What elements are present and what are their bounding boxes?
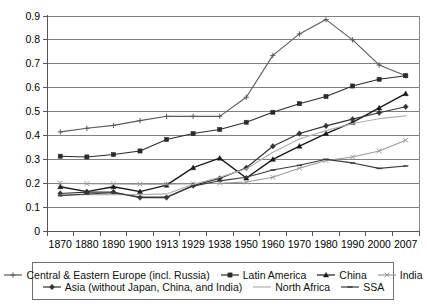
y-axis-tick-label: 0.1 [25, 201, 40, 213]
data-point-marker [137, 118, 142, 123]
legend-item-china[interactable]: China [316, 270, 366, 281]
x-axis-tick-label: 1960 [261, 238, 285, 250]
none-legend-marker-icon [252, 282, 272, 292]
x-axis-tick-label: 1890 [102, 238, 126, 250]
legend-item-label: Central & Eastern Europe (incl. Russia) [26, 270, 209, 281]
line-chart: 00.10.20.30.40.50.60.70.80.9187018801890… [0, 0, 427, 258]
legend-item-north-africa[interactable]: North Africa [252, 282, 330, 293]
data-point-marker [324, 123, 329, 129]
legend-item-latin-america[interactable]: Latin America [220, 270, 307, 281]
data-point-marker [138, 149, 142, 153]
legend-item-label: SSA [363, 282, 384, 293]
data-point-marker [403, 138, 408, 143]
data-point-marker [191, 131, 195, 135]
legend-row-2: Asia (without Japan, China, and India)No… [37, 282, 389, 293]
legend-row-1: Central & Eastern Europe (incl. Russia)L… [0, 270, 427, 281]
data-point-marker [85, 155, 89, 159]
chart-page: 00.10.20.30.40.50.60.70.80.9187018801890… [0, 0, 427, 308]
legend-item-central-eastern-europe-incl-russia[interactable]: Central & Eastern Europe (incl. Russia) [3, 270, 209, 281]
x-axis-tick-label: 1938 [208, 238, 232, 250]
data-point-marker [58, 129, 63, 134]
x-axis-tick-label: 1900 [128, 238, 152, 250]
data-point-marker [111, 152, 115, 156]
legend-item-label: North Africa [275, 282, 330, 293]
legend-item-label: China [339, 270, 366, 281]
none-icon [252, 282, 272, 292]
y-axis-tick-label: 0.8 [25, 33, 40, 45]
series-central-eastern-europe-incl-russia [58, 17, 409, 134]
legend-item-asia-without-japan-china-and-india[interactable]: Asia (without Japan, China, and India) [42, 282, 242, 293]
data-point-marker [403, 104, 408, 110]
dash-legend-marker-icon [340, 282, 360, 292]
diamond-icon [42, 282, 62, 292]
data-point-marker [228, 273, 232, 277]
y-axis-tick-label: 0.7 [25, 57, 40, 69]
data-point-marker [217, 156, 222, 161]
square-legend-marker-icon [220, 270, 240, 280]
data-point-marker [297, 102, 301, 106]
data-point-marker [404, 74, 408, 78]
triangle-legend-marker-icon [316, 270, 336, 280]
cross-legend-marker-icon [377, 270, 397, 280]
data-point-marker [350, 84, 354, 88]
data-point-marker [111, 189, 116, 195]
x-axis-tick-label: 2007 [394, 238, 418, 250]
data-point-marker [49, 284, 54, 290]
data-point-marker [377, 77, 381, 81]
data-point-marker [11, 272, 16, 277]
series-latin-america [58, 74, 408, 159]
plus-legend-marker-icon [3, 270, 23, 280]
x-axis-tick-label: 1880 [75, 238, 99, 250]
data-point-marker [191, 114, 196, 119]
series-asia-without-japan-china-and-india [58, 104, 408, 200]
y-axis-tick-label: 0.2 [25, 177, 40, 189]
x-axis-tick-label: 1929 [181, 238, 205, 250]
data-point-marker [377, 110, 382, 116]
y-axis-tick-label: 0.3 [25, 153, 40, 165]
data-point-marker [84, 126, 89, 131]
x-axis-tick-label: 1870 [49, 238, 73, 250]
data-point-marker [271, 110, 275, 114]
y-axis-tick-label: 0.4 [25, 129, 40, 141]
x-axis-tick-label: 1950 [235, 238, 259, 250]
legend-item-ssa[interactable]: SSA [340, 282, 384, 293]
dash-icon [340, 282, 360, 292]
series-line [60, 94, 405, 192]
diamond-legend-marker-icon [42, 282, 62, 292]
data-point-marker [244, 120, 248, 124]
data-point-marker [164, 137, 168, 141]
x-axis-tick-label: 1970 [288, 238, 312, 250]
data-point-marker [58, 154, 62, 158]
x-axis-tick-label: 1980 [314, 238, 338, 250]
y-axis-tick-label: 0 [34, 225, 40, 237]
x-axis-tick-label: 1913 [155, 238, 179, 250]
plus-icon [3, 270, 23, 280]
series-ssa [58, 159, 409, 197]
series-line [60, 20, 405, 132]
legend-item-label: India [400, 270, 423, 281]
triangle-icon [316, 270, 336, 280]
x-axis-tick-label: 1990 [341, 238, 365, 250]
y-axis-tick-label: 0.5 [25, 105, 40, 117]
data-point-marker [324, 94, 328, 98]
data-point-marker [403, 91, 408, 96]
chart-legend: Central & Eastern Europe (incl. Russia)L… [32, 262, 394, 300]
data-point-marker [111, 123, 116, 128]
cross-icon [377, 270, 397, 280]
series-line [60, 140, 405, 184]
x-axis-tick-label: 2000 [367, 238, 391, 250]
legend-item-india[interactable]: India [377, 270, 423, 281]
legend-item-label: Asia (without Japan, China, and India) [65, 282, 242, 293]
data-point-marker [164, 114, 169, 119]
chart-canvas: 00.10.20.30.40.50.60.70.80.9187018801890… [0, 0, 427, 258]
y-axis-tick-label: 0.9 [25, 10, 40, 22]
y-axis-tick-label: 0.6 [25, 81, 40, 93]
legend-item-label: Latin America [243, 270, 307, 281]
data-point-marker [218, 127, 222, 131]
square-icon [220, 270, 240, 280]
